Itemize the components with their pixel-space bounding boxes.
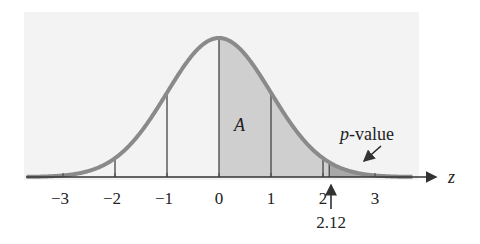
axis-ticks: −3−2−10123 xyxy=(51,173,379,208)
p-value-pointer-arrow xyxy=(364,146,381,161)
area-a-region xyxy=(219,38,329,177)
p-value-label-rest: -value xyxy=(349,124,394,144)
area-a-label: A xyxy=(233,115,246,135)
tick-label: 1 xyxy=(267,189,276,208)
tick-label: −3 xyxy=(51,189,69,208)
p-value-label-p: p xyxy=(338,124,349,144)
tick-label: −2 xyxy=(103,189,121,208)
tick-label: 2 xyxy=(319,189,328,208)
marker-label: 2.12 xyxy=(316,213,346,232)
z-axis-label: z xyxy=(447,167,455,187)
tick-label: 3 xyxy=(371,189,380,208)
normal-curve-diagram: −3−2−10123 z A p-value 2.12 xyxy=(0,0,480,244)
tick-label: −1 xyxy=(155,189,173,208)
tick-label: 0 xyxy=(215,189,224,208)
p-value-label: p-value xyxy=(338,124,394,144)
